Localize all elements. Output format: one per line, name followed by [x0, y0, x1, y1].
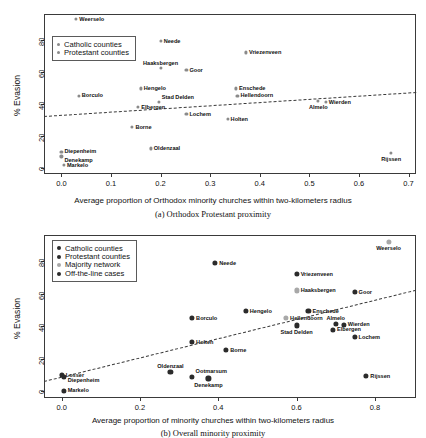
y-axis-title-a: % Evasion — [12, 75, 22, 116]
data-point-label: Hellendoorn — [241, 92, 274, 98]
legend-marker-icon — [57, 255, 61, 259]
data-point-label: Rijssen — [370, 373, 390, 379]
y-tick-label: 0 — [37, 166, 46, 170]
data-point-label: Markelo — [68, 387, 89, 393]
x-tick-label: 0.0 — [56, 403, 66, 412]
data-point-label: Almelo — [309, 104, 328, 110]
legend-marker-icon — [57, 51, 60, 54]
data-point-label: Goor — [189, 67, 202, 73]
x-tick-label: 0.1 — [106, 179, 116, 188]
data-point-label: Ootmarsum — [196, 368, 227, 374]
x-tick-mark — [111, 174, 112, 177]
x-axis-title-b: Average proportion of minority churches … — [0, 416, 426, 425]
x-tick-mark — [297, 398, 298, 401]
legend-marker-icon — [57, 272, 61, 276]
legend-label: Protestant counties — [64, 49, 129, 57]
data-point-label: Holten — [196, 339, 213, 345]
data-point-label: Holten — [231, 116, 248, 122]
data-point-label: Neede — [219, 260, 236, 266]
data-point-label: Vriezenveen — [301, 271, 333, 277]
data-point-label: Oldenzaal — [157, 363, 183, 369]
x-tick-mark — [210, 174, 211, 177]
data-point-label: Borculo — [82, 92, 103, 98]
data-point-label: Diepenheim — [68, 377, 100, 383]
data-point-label: Elbergen — [337, 326, 361, 332]
data-point-label: Rijssen — [381, 156, 401, 162]
x-tick-mark — [161, 174, 162, 177]
x-tick-mark — [409, 174, 410, 177]
data-point-label: Almelo — [326, 315, 345, 321]
panel-overall-minority-proximity: % Evasion 020406080 0.00.20.40.60.8 Weer… — [0, 218, 426, 437]
legend-marker-icon — [57, 43, 60, 46]
data-point-label: Vriezenveen — [249, 49, 281, 55]
data-point-label: Stad Delden — [280, 329, 312, 335]
data-point-label: Diepenheim — [64, 148, 96, 154]
data-point-label: Haaksbergen — [143, 60, 178, 66]
x-tick-mark — [61, 174, 62, 177]
y-tick-label: 80 — [37, 37, 46, 45]
x-tick-label: 0.4 — [213, 403, 223, 412]
data-point-label: Elbergen — [141, 104, 165, 110]
data-point-label: Borculo — [196, 315, 217, 321]
x-axis-title-a: Average proportion of Orthodox minority … — [0, 196, 426, 205]
legend-item: Protestant counties — [57, 49, 129, 57]
x-tick-label: 0.2 — [155, 179, 165, 188]
x-tick-label: 0.6 — [291, 403, 301, 412]
data-point-label: Hengelo — [250, 308, 272, 314]
y-tick-label: 60 — [37, 291, 46, 299]
x-tick-label: 0.0 — [56, 179, 66, 188]
data-point-label: Weerselo — [376, 245, 401, 251]
y-tick-label: 80 — [37, 259, 46, 267]
data-point-label: Wierden — [329, 99, 351, 105]
legend-item: Off-the-line cases — [57, 270, 130, 278]
x-tick-label: 0.6 — [354, 179, 364, 188]
x-tick-label: 0.8 — [370, 403, 380, 412]
data-point-label: Lochem — [189, 111, 210, 117]
panel-caption-b: (b) Overall minority proximity — [0, 428, 426, 438]
y-tick-label: 40 — [37, 101, 46, 109]
legend-b: Catholic countiesProtestant countiesMajo… — [52, 240, 137, 282]
data-point-label: Goor — [359, 289, 372, 295]
y-tick-label: 20 — [37, 133, 46, 141]
panel-orthodox-protestant-proximity: % Evasion 020406080 0.00.10.20.30.40.50.… — [0, 0, 426, 218]
data-point-label: Denekamp — [194, 382, 222, 388]
data-point-label: Enschede — [312, 308, 338, 314]
data-point-label: Hengelo — [144, 85, 166, 91]
data-point-label: Stad Delden — [162, 94, 194, 100]
data-point-label: Neede — [164, 38, 181, 44]
data-point-label: Borne — [135, 124, 151, 130]
legend-marker-icon — [57, 263, 61, 267]
data-point-label: Lochem — [359, 334, 380, 340]
y-axis-title-b: % Evasion — [12, 297, 22, 338]
y-tick-label: 60 — [37, 69, 46, 77]
x-tick-label: 0.4 — [255, 179, 265, 188]
x-tick-mark — [260, 174, 261, 177]
legend-label: Off-the-line cases — [65, 270, 124, 278]
x-tick-mark — [218, 398, 219, 401]
legend-a: Catholic countiesProtestant counties — [52, 36, 136, 61]
x-tick-label: 0.2 — [135, 403, 145, 412]
x-tick-mark — [375, 398, 376, 401]
data-point-label: Enschede — [239, 85, 265, 91]
x-tick-label: 0.7 — [403, 179, 413, 188]
data-point-label: Oldenzaal — [154, 145, 180, 151]
y-tick-label: 20 — [37, 357, 46, 365]
legend-marker-icon — [57, 246, 61, 250]
data-point-label: Haaksbergen — [301, 287, 336, 293]
y-tick-label: 40 — [37, 324, 46, 332]
x-tick-mark — [62, 398, 63, 401]
x-tick-label: 0.3 — [205, 179, 215, 188]
x-tick-mark — [309, 174, 310, 177]
data-point-label: Hellendoorn — [290, 315, 323, 321]
data-point-label: Borne — [230, 347, 246, 353]
y-tick-label: 0 — [37, 390, 46, 394]
x-tick-label: 0.5 — [304, 179, 314, 188]
x-tick-mark — [359, 174, 360, 177]
data-point-label: Markelo — [67, 162, 88, 168]
data-point-label: Weerselo — [79, 16, 104, 22]
x-tick-mark — [140, 398, 141, 401]
